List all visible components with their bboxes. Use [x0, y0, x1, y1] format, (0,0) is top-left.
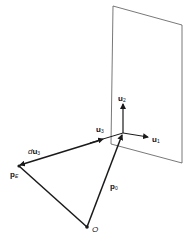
- u2-label-sub: 2: [123, 97, 126, 103]
- u1-label-sub: 1: [157, 138, 160, 144]
- du3-label: du3: [28, 148, 40, 157]
- u3-short-arrow: [90, 139, 103, 143]
- u1-label: u1: [152, 136, 160, 145]
- pE-point: [17, 164, 20, 167]
- u3-axis-line: [103, 133, 123, 139]
- p0-label-sub: 0: [115, 185, 118, 191]
- u1-axis-arrow: [123, 133, 148, 137]
- diagram-canvas: [0, 0, 193, 239]
- u3-label: u3: [96, 126, 104, 135]
- pE-vector-line: [19, 166, 87, 227]
- pE-label-sub: E: [15, 173, 18, 179]
- origin-label: O: [92, 226, 98, 234]
- p0-label: p0: [110, 183, 118, 192]
- u2-label: u2: [118, 95, 126, 104]
- origin-point: [85, 225, 89, 229]
- image-plane: [111, 6, 182, 163]
- u3-label-sub: 3: [101, 128, 104, 134]
- p0-vector-arrow: [87, 135, 122, 227]
- du3-label-sub: 3: [37, 150, 40, 156]
- pE-label: pE: [10, 171, 18, 180]
